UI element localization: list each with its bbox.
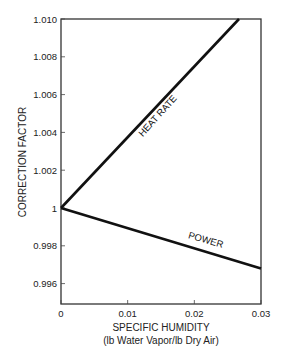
y-tick-label: 1.004 — [33, 127, 57, 138]
x-axis: 00.010.020.03 — [58, 300, 270, 319]
x-tick-label: 0 — [58, 308, 63, 319]
y-axis: 1.0101.0081.0061.0041.00210.9980.996 — [33, 14, 65, 290]
x-axis-subtitle: (lb Water Vapor/lb Dry Air) — [103, 335, 219, 346]
y-axis-title: CORRECTION FACTOR — [17, 107, 28, 217]
x-tick-label: 0.01 — [118, 308, 137, 319]
y-tick-label: 1.008 — [33, 51, 57, 62]
x-tick-label: 0.02 — [185, 308, 204, 319]
y-tick-label: 1 — [52, 203, 57, 214]
correction-factor-chart: 1.0101.0081.0061.0041.00210.9980.996 00.… — [0, 0, 282, 357]
y-tick-label: 0.998 — [33, 240, 57, 251]
x-axis-title: SPECIFIC HUMIDITY — [112, 322, 210, 333]
series-line-power — [61, 208, 261, 269]
y-tick-label: 1.002 — [33, 165, 57, 176]
y-tick-label: 1.006 — [33, 89, 57, 100]
plot-frame — [61, 19, 261, 304]
x-tick-label: 0.03 — [252, 308, 271, 319]
series-line-heat-rate — [61, 19, 239, 208]
y-tick-label: 1.010 — [33, 14, 57, 25]
series-lines — [61, 19, 261, 269]
y-tick-label: 0.996 — [33, 278, 57, 289]
series-label-heat-rate: HEAT RATE — [136, 93, 179, 139]
